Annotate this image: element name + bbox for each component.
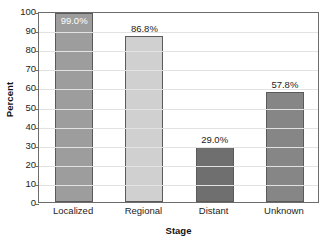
y-tick-mark bbox=[35, 13, 39, 14]
y-tick-mark bbox=[35, 89, 39, 90]
bar[interactable] bbox=[125, 36, 163, 202]
x-axis-tick-labels: LocalizedRegionalDistantUnknown bbox=[38, 205, 319, 221]
y-tick-mark bbox=[35, 128, 39, 129]
bar-value-label: 29.0% bbox=[182, 135, 248, 145]
y-tick-label: 40 bbox=[14, 122, 36, 132]
y-tick-label: 100 bbox=[14, 7, 36, 17]
bar-chart: Percent 0102030405060708090100 99.0%86.8… bbox=[0, 0, 327, 243]
bar-value-label: 99.0% bbox=[55, 16, 93, 26]
y-tick-label: 60 bbox=[14, 84, 36, 94]
gridline bbox=[39, 185, 318, 186]
y-tick-mark bbox=[35, 185, 39, 186]
y-tick-label: 30 bbox=[14, 141, 36, 151]
y-tick-label: 20 bbox=[14, 160, 36, 170]
bar-group[interactable]: 86.8% bbox=[125, 13, 163, 202]
y-tick-mark bbox=[35, 51, 39, 52]
bar[interactable] bbox=[55, 13, 93, 202]
bar[interactable] bbox=[196, 147, 234, 202]
bar-group[interactable]: 29.0% bbox=[196, 13, 234, 202]
x-tick-label: Distant bbox=[179, 205, 249, 217]
plot-area: 99.0%86.8%29.0%57.8% bbox=[38, 12, 319, 203]
y-tick-mark bbox=[35, 70, 39, 71]
gridline bbox=[39, 147, 318, 148]
y-axis-title: Percent bbox=[4, 70, 15, 130]
y-tick-mark bbox=[35, 166, 39, 167]
bar-group[interactable]: 57.8% bbox=[266, 13, 304, 202]
x-tick-label: Unknown bbox=[249, 205, 319, 217]
y-tick-label: 50 bbox=[14, 103, 36, 113]
y-tick-label: 80 bbox=[14, 45, 36, 55]
bar-group[interactable]: 99.0% bbox=[55, 13, 93, 202]
y-tick-mark bbox=[35, 147, 39, 148]
y-tick-label: 70 bbox=[14, 65, 36, 75]
y-tick-label: 90 bbox=[14, 26, 36, 36]
gridline bbox=[39, 32, 318, 33]
gridline bbox=[39, 89, 318, 90]
gridline bbox=[39, 51, 318, 52]
gridline bbox=[39, 128, 318, 129]
gridline bbox=[39, 109, 318, 110]
y-tick-mark bbox=[35, 109, 39, 110]
y-tick-label: 10 bbox=[14, 179, 36, 189]
y-tick-label: 0 bbox=[14, 198, 36, 208]
x-axis-title: Stage bbox=[38, 225, 319, 236]
bar-series: 99.0%86.8%29.0%57.8% bbox=[39, 13, 318, 202]
x-tick-label: Regional bbox=[108, 205, 178, 217]
y-tick-mark bbox=[35, 32, 39, 33]
y-axis-tick-labels: 0102030405060708090100 bbox=[14, 12, 36, 203]
gridline bbox=[39, 166, 318, 167]
gridline bbox=[39, 70, 318, 71]
x-tick-label: Localized bbox=[38, 205, 108, 217]
